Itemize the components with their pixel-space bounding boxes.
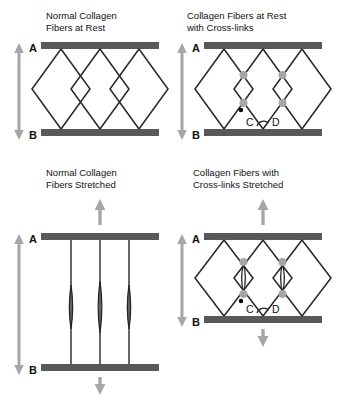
panel-crosslinks-at-rest: Collagen Fibers at Rest with Cross-links… xyxy=(171,0,341,155)
load-arrow-up xyxy=(95,199,106,225)
load-arrow-down xyxy=(258,329,269,347)
panel-title-normal-stretched: Normal Collagen Fibers Stretched xyxy=(46,167,166,191)
collagen-fiber-diagram: Normal Collagen Fibers at Rest A B xyxy=(0,0,341,407)
span-arrow-double-vertical xyxy=(177,43,187,140)
plate-a xyxy=(204,233,322,240)
plate-label-b-bottom: B xyxy=(29,364,37,376)
node-label-d: D xyxy=(272,116,280,128)
panel-title-crosslinks-stretched: Collagen Fibers with Cross-links Stretch… xyxy=(193,167,338,191)
plate-label-b-bottom: B xyxy=(192,129,200,141)
reference-point-marker xyxy=(239,108,243,112)
plate-b xyxy=(41,129,159,136)
plate-a xyxy=(41,233,159,240)
diagram-crosslinks-stretched: A B xyxy=(171,195,341,395)
fiber-network-rest-crosslinked xyxy=(195,49,331,129)
plate-label-a-top: A xyxy=(29,42,37,54)
plate-label-b-bottom: B xyxy=(29,129,37,141)
node-label-d: D xyxy=(272,303,280,315)
plate-b xyxy=(204,316,322,323)
load-arrow-down xyxy=(95,377,106,395)
fiber-lens xyxy=(281,263,285,293)
crosslink-nodes xyxy=(240,71,287,107)
fiber-network-rest xyxy=(32,49,168,129)
node-label-c: C xyxy=(246,303,254,315)
load-arrow-up xyxy=(258,199,269,225)
plate-b xyxy=(41,364,159,371)
crosslink-node xyxy=(240,258,248,266)
node-label-c: C xyxy=(246,116,254,128)
panel-normal-at-rest: Normal Collagen Fibers at Rest A B xyxy=(0,0,171,155)
fiber-lens-group xyxy=(242,263,285,293)
panel-title-normal-at-rest: Normal Collagen Fibers at Rest xyxy=(46,10,166,34)
panel-title-crosslinks-at-rest: Collagen Fibers at Rest with Cross-links xyxy=(187,10,337,34)
fiber-lens xyxy=(242,263,246,293)
fiber-network-stretched-crosslinked xyxy=(195,240,331,316)
plate-a xyxy=(204,42,322,49)
panel-crosslinks-stretched: Collagen Fibers with Cross-links Stretch… xyxy=(171,155,341,407)
plate-b xyxy=(204,129,322,136)
fiber-network-stretched xyxy=(69,240,130,364)
crosslink-node xyxy=(240,99,248,107)
plate-label-a-top: A xyxy=(192,42,200,54)
plate-label-b-bottom: B xyxy=(192,316,200,328)
crosslink-node xyxy=(240,290,248,298)
crosslink-node xyxy=(279,71,287,79)
plate-label-a-top: A xyxy=(29,233,37,245)
diagram-normal-at-rest: A B xyxy=(0,38,171,153)
plate-a xyxy=(41,42,159,49)
span-arrow-double-vertical xyxy=(14,43,24,140)
diagram-normal-stretched: A B xyxy=(0,195,171,395)
span-arrow-double-vertical xyxy=(177,234,187,327)
crosslink-nodes xyxy=(240,258,287,298)
crosslink-node xyxy=(279,258,287,266)
reference-point-marker xyxy=(239,299,243,303)
panel-normal-stretched: Normal Collagen Fibers Stretched A B xyxy=(0,155,171,407)
crosslink-node xyxy=(240,71,248,79)
plate-label-a-top: A xyxy=(192,233,200,245)
crosslink-node xyxy=(279,99,287,107)
crosslink-node xyxy=(279,290,287,298)
diagram-crosslinks-at-rest: A B C D xyxy=(171,38,341,153)
span-arrow-double-vertical xyxy=(14,234,24,375)
